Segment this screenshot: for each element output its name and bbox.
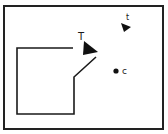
- polygon-path: [17, 48, 96, 114]
- marker-t-triangle-icon: [121, 23, 131, 32]
- markers-group: Tt: [77, 13, 131, 55]
- point-c-dot: [113, 68, 118, 73]
- marker-T-label: T: [77, 31, 85, 42]
- marker-T-triangle-icon: [83, 41, 98, 55]
- point-c-label: c: [122, 66, 127, 76]
- marker-t-label: t: [126, 13, 129, 22]
- diagram-canvas: Tt c: [0, 0, 168, 134]
